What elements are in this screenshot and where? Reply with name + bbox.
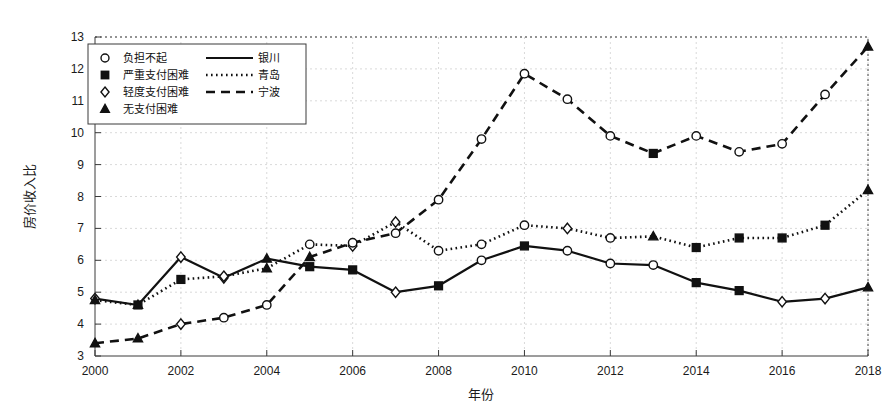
y-tick-label: 4	[77, 317, 84, 331]
y-tick-label: 12	[71, 62, 85, 76]
marker-square-severe-difficulty	[821, 221, 829, 229]
x-tick-label: 2004	[253, 364, 280, 378]
x-tick-label: 2012	[597, 364, 624, 378]
marker-square-severe-difficulty	[735, 287, 743, 295]
marker-circle-unaffordable	[563, 95, 571, 103]
y-tick-label: 8	[77, 190, 84, 204]
x-tick-label: 2018	[855, 364, 882, 378]
marker-circle-unaffordable	[821, 90, 829, 98]
marker-square-severe-difficulty	[306, 263, 314, 271]
marker-square-severe-difficulty	[692, 279, 700, 287]
legend: 负担不起严重支付困难轻度支付困难无支付困难银川青岛宁波	[88, 44, 306, 124]
y-tick-label: 7	[77, 221, 84, 235]
marker-circle-unaffordable	[606, 234, 614, 242]
chart-container: 3456789101112132000200220042006200820102…	[0, 0, 891, 415]
marker-circle-unaffordable	[477, 256, 485, 264]
legend-label-city-青岛: 青岛	[258, 68, 280, 81]
marker-square-severe-difficulty	[349, 266, 357, 274]
marker-circle-unaffordable	[101, 54, 109, 62]
marker-square-severe-difficulty	[521, 242, 529, 250]
y-tick-label: 6	[77, 253, 84, 267]
marker-circle-unaffordable	[735, 148, 743, 156]
marker-circle-unaffordable	[306, 240, 314, 248]
marker-square-severe-difficulty	[778, 234, 786, 242]
x-axis-title: 年份	[468, 387, 494, 402]
marker-circle-unaffordable	[520, 69, 528, 77]
marker-square-severe-difficulty	[435, 282, 443, 290]
marker-circle-unaffordable	[263, 301, 271, 309]
x-tick-label: 2010	[511, 364, 538, 378]
x-tick-label: 2002	[168, 364, 195, 378]
marker-square-severe-difficulty	[692, 244, 700, 252]
marker-circle-unaffordable	[434, 195, 442, 203]
marker-circle-unaffordable	[606, 259, 614, 267]
marker-circle-unaffordable	[649, 261, 657, 269]
y-tick-label: 13	[71, 30, 85, 44]
marker-circle-unaffordable	[220, 314, 228, 322]
marker-circle-unaffordable	[520, 221, 528, 229]
marker-square-severe-difficulty	[735, 234, 743, 242]
x-tick-label: 2016	[769, 364, 796, 378]
marker-circle-unaffordable	[606, 132, 614, 140]
x-tick-label: 2008	[425, 364, 452, 378]
marker-circle-unaffordable	[477, 240, 485, 248]
marker-circle-unaffordable	[391, 229, 399, 237]
marker-square-severe-difficulty	[134, 301, 142, 309]
house-price-income-ratio-line-chart: 3456789101112132000200220042006200820102…	[0, 0, 891, 415]
marker-square-severe-difficulty	[177, 276, 185, 284]
legend-label-square: 严重支付困难	[123, 68, 189, 81]
legend-label-circle: 负担不起	[123, 51, 167, 64]
y-tick-label: 9	[77, 158, 84, 172]
legend-label-city-宁波: 宁波	[258, 85, 280, 98]
y-tick-label: 11	[72, 94, 85, 108]
y-tick-label: 5	[77, 285, 84, 299]
marker-circle-unaffordable	[563, 247, 571, 255]
marker-circle-unaffordable	[348, 239, 356, 247]
x-tick-label: 2000	[82, 364, 109, 378]
legend-label-city-银川: 银川	[258, 51, 280, 64]
legend-label-triangle: 无支付困难	[123, 103, 178, 115]
x-tick-label: 2014	[683, 364, 710, 378]
marker-circle-unaffordable	[477, 135, 485, 143]
marker-circle-unaffordable	[778, 140, 786, 148]
marker-circle-unaffordable	[434, 247, 442, 255]
y-tick-label: 10	[71, 126, 85, 140]
y-tick-label: 3	[77, 349, 84, 363]
x-tick-label: 2006	[339, 364, 366, 378]
legend-label-diamond: 轻度支付困难	[123, 85, 189, 98]
marker-square-severe-difficulty	[649, 150, 657, 158]
marker-square-severe-difficulty	[101, 71, 108, 78]
marker-circle-unaffordable	[692, 132, 700, 140]
y-axis-title: 房价收入比	[22, 164, 37, 229]
